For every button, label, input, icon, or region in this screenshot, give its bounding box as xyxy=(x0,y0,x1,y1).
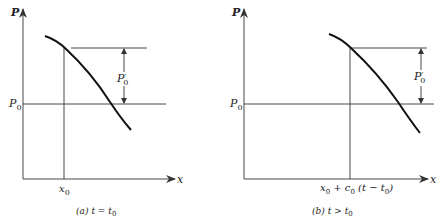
x-axis-label: x xyxy=(177,173,184,186)
panel-a: P x P′0 P0 x0 (a)t = t0 xyxy=(8,6,184,218)
wave-propagation-diagram: P x P′0 P0 x0 (a)t = t0 P x xyxy=(0,0,443,223)
y-axis-label: P xyxy=(231,6,241,19)
caption-a: (a)t = t0 xyxy=(76,206,116,218)
caption-b: (b)t > t0 xyxy=(312,206,353,218)
pressure-curve xyxy=(329,34,420,133)
y-axis-label: P xyxy=(10,6,20,19)
panel-b: P x P′0 P0 x0 + c0 (t − t0) (b)t > t0 xyxy=(229,6,437,218)
position-label: x0 + c0 (t − t0) xyxy=(320,182,393,196)
x-axis-label: x xyxy=(430,173,437,186)
baseline-label: P0 xyxy=(8,97,22,112)
amplitude-label: P′0 xyxy=(116,72,128,87)
baseline-label: P0 xyxy=(229,97,243,112)
position-label: x0 xyxy=(59,183,70,197)
amplitude-label: P′0 xyxy=(413,70,425,85)
